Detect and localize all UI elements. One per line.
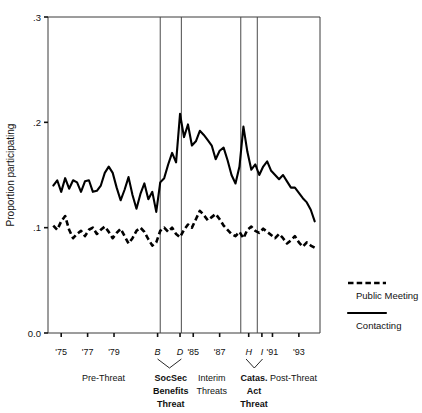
y-tick-label: 0.0 [28,328,41,339]
period-labels: Pre-ThreatSocSecBenefitsThreatInterimThr… [82,359,318,409]
period-label: Post-Threat [270,373,318,383]
x-tick-label: '85 [187,347,199,357]
x-tick-label: B [155,347,161,357]
period-label: Act [247,386,262,396]
x-tick-label: '93 [293,347,305,357]
legend-label: Public Meeting [356,290,418,301]
period-label: Catas. [240,373,267,383]
y-tick-label: .2 [33,117,41,128]
y-axis-title: Proportion participating [5,124,16,227]
period-divider-lines [160,17,257,333]
series-contacting [53,114,314,221]
x-tick-label: '75 [55,347,67,357]
plot-frame [48,17,320,333]
frame-rect [48,17,320,333]
data-series-group [53,114,314,248]
period-label: Threats [196,386,227,396]
chart-svg: 0.0.1.2.3Proportion participating'75'77'… [0,0,422,413]
period-brace [246,359,263,368]
x-tick-label: D [177,347,184,357]
x-tick-label: '79 [108,347,120,357]
period-label: Interim [198,373,226,383]
chart-figure: 0.0.1.2.3Proportion participating'75'77'… [0,0,422,413]
x-tick-label: H [245,347,252,357]
y-tick-label: .3 [33,12,41,23]
period-label: Threat [157,399,185,409]
period-label: Threat [240,399,268,409]
series-public-meeting [53,211,314,248]
x-tick-label: '77 [82,347,94,357]
period-label: Pre-Threat [82,373,126,383]
x-tick-label: I [261,347,264,357]
x-tick-label: '87 [214,347,226,357]
period-brace [158,359,182,368]
period-label: SocSec [155,373,188,383]
legend-label: Contacting [356,320,401,331]
x-tick-label: '91 [267,347,279,357]
period-label: Benefits [153,386,189,396]
y-axis: 0.0.1.2.3 [28,12,48,339]
x-axis: '75'77'79BD'85'87HI'91'93 [55,333,304,357]
y-tick-label: .1 [33,222,41,233]
legend: Public MeetingContacting [348,283,418,331]
